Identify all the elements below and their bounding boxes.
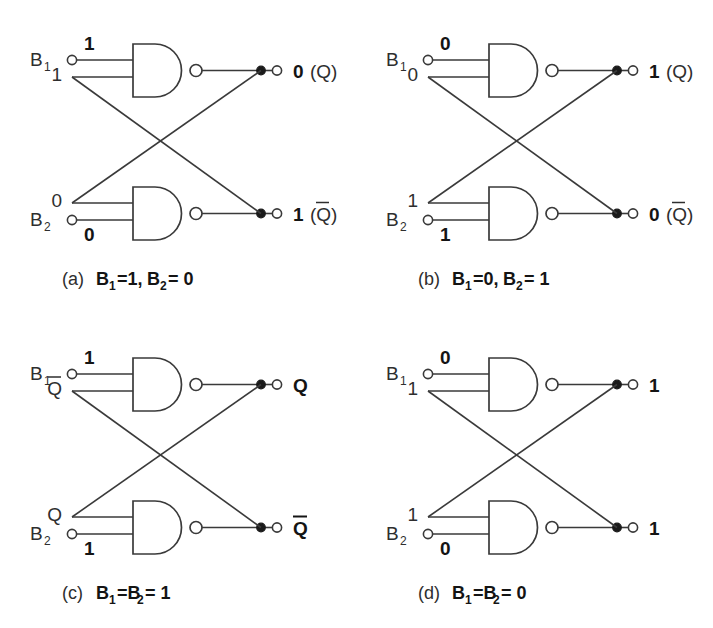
label-lower-input-value: 0 <box>440 538 451 559</box>
wire-cross-upper-to-lower <box>428 71 617 204</box>
nand-inversion-bubble-icon <box>190 379 202 391</box>
label-upper-input-name: B <box>386 49 399 70</box>
output-terminal-lower[interactable] <box>628 523 637 532</box>
label-lower-input-name: B <box>30 523 43 544</box>
input-terminal-lower[interactable] <box>67 215 76 224</box>
input-terminal-upper[interactable] <box>423 369 432 378</box>
input-terminal-upper[interactable] <box>67 369 76 378</box>
label-upper-input-value: 0 <box>440 347 451 368</box>
label-lower-input-value: 1 <box>440 224 451 245</box>
wire-cross-lower-to-upper <box>428 77 617 214</box>
nand-gate-upper <box>133 44 182 97</box>
caption-b1: B <box>96 269 109 289</box>
panel-a: B1110(Q)B2001(Q)(a)B1=1,B2= 0 <box>0 0 356 314</box>
label-lower-feedback-value: 1 <box>407 190 418 211</box>
caption-index: (b) <box>418 269 440 289</box>
label-upper-output-name: (Q) <box>666 61 693 82</box>
label-lower-feedback-value: Q <box>47 504 62 525</box>
label-lower-feedback-value: 1 <box>407 504 418 525</box>
caption-index: (a) <box>62 269 84 289</box>
output-terminal-upper[interactable] <box>272 66 281 75</box>
caption-b1: B <box>452 269 465 289</box>
label-lower-output-value: 1 <box>649 518 660 539</box>
caption-b1-sub: 1 <box>465 593 472 607</box>
label-upper-input-sub: 1 <box>400 374 407 388</box>
nand-gate-lower <box>133 501 182 554</box>
label-lower-output-name: (Q) <box>310 204 337 225</box>
input-terminal-lower[interactable] <box>423 215 432 224</box>
label-lower-input-sub: 2 <box>400 534 407 548</box>
label-upper-feedback-value: 1 <box>51 64 62 85</box>
caption-b2: B <box>147 269 160 289</box>
label-upper-output-value: 0 <box>293 61 304 82</box>
label-lower-input-sub: 2 <box>400 220 407 234</box>
label-lower-output-value: 0 <box>649 204 660 225</box>
label-lower-input-value: 1 <box>84 538 95 559</box>
caption-end: = 1 <box>524 269 550 289</box>
nand-inversion-bubble-icon <box>546 379 558 391</box>
nand-inversion-bubble-icon <box>190 522 202 534</box>
nand-inversion-bubble-icon <box>190 208 202 220</box>
panel-d-circuit: B1011B2011(d)B1=B2= 0 <box>356 314 712 628</box>
panel-b-circuit: B1001(Q)B2110(Q)(b)B1=0,B2= 1 <box>356 0 712 314</box>
caption-b2-sub: 2 <box>516 279 523 293</box>
caption-b2-sub: 2 <box>137 593 144 607</box>
caption-end: = 0 <box>168 269 194 289</box>
label-lower-output-value: Q <box>293 518 308 539</box>
nand-inversion-bubble-icon <box>546 65 558 77</box>
panel-a-circuit: B1110(Q)B2001(Q)(a)B1=1,B2= 0 <box>0 0 356 314</box>
caption-b1: B <box>452 583 465 603</box>
caption-b1-sub: 1 <box>465 279 472 293</box>
panel-c-circuit: B11QQB21QQ(c)B1=B2= 1 <box>0 314 356 628</box>
label-upper-input-name: B <box>386 363 399 384</box>
wire-cross-upper-to-lower <box>428 385 617 518</box>
input-terminal-lower[interactable] <box>67 529 76 538</box>
output-terminal-upper[interactable] <box>628 66 637 75</box>
output-terminal-lower[interactable] <box>272 523 281 532</box>
panel-c: B11QQB21QQ(c)B1=B2= 1 <box>0 314 356 628</box>
label-lower-input-name: B <box>386 209 399 230</box>
nand-gate-lower <box>133 187 182 240</box>
panel-d: B1011B2011(d)B1=B2= 0 <box>356 314 712 628</box>
nand-inversion-bubble-icon <box>546 522 558 534</box>
label-upper-input-value: 0 <box>440 33 451 54</box>
output-terminal-upper[interactable] <box>272 380 281 389</box>
wire-cross-lower-to-upper <box>72 391 261 528</box>
output-terminal-upper[interactable] <box>628 380 637 389</box>
label-lower-output-value: 1 <box>293 204 304 225</box>
wire-cross-lower-to-upper <box>428 391 617 528</box>
label-lower-input-sub: 2 <box>44 534 51 548</box>
wire-cross-lower-to-upper <box>72 77 261 214</box>
label-lower-output-name: (Q) <box>666 204 693 225</box>
caption-b1: B <box>96 583 109 603</box>
caption-b2-sub: 2 <box>493 593 500 607</box>
label-upper-input-sub: 1 <box>400 60 407 74</box>
label-upper-input-name: B <box>30 363 43 384</box>
label-upper-input-sub: 1 <box>44 60 51 74</box>
caption-b1-sub: 1 <box>109 279 116 293</box>
label-upper-feedback-value: Q <box>47 378 62 399</box>
wire-cross-upper-to-lower <box>72 385 261 518</box>
input-terminal-lower[interactable] <box>423 529 432 538</box>
nand-gate-upper <box>489 358 538 411</box>
caption-middle: =0, <box>473 269 499 289</box>
label-lower-feedback-value: 0 <box>51 190 62 211</box>
nand-gate-upper <box>133 358 182 411</box>
label-upper-output-name: (Q) <box>310 61 337 82</box>
caption-index: (d) <box>418 583 440 603</box>
output-terminal-lower[interactable] <box>628 209 637 218</box>
caption-b2-sub: 2 <box>160 279 167 293</box>
panel-b: B1001(Q)B2110(Q)(b)B1=0,B2= 1 <box>356 0 712 314</box>
caption-middle: =1, <box>117 269 143 289</box>
input-terminal-upper[interactable] <box>423 55 432 64</box>
caption-b2: B <box>503 269 516 289</box>
label-lower-input-sub: 2 <box>44 220 51 234</box>
caption-b1-sub: 1 <box>109 593 116 607</box>
nand-gate-lower <box>489 501 538 554</box>
input-terminal-upper[interactable] <box>67 55 76 64</box>
caption-index: (c) <box>62 583 83 603</box>
output-terminal-lower[interactable] <box>272 209 281 218</box>
label-upper-input-value: 1 <box>84 347 95 368</box>
nand-inversion-bubble-icon <box>190 65 202 77</box>
label-upper-input-value: 1 <box>84 33 95 54</box>
